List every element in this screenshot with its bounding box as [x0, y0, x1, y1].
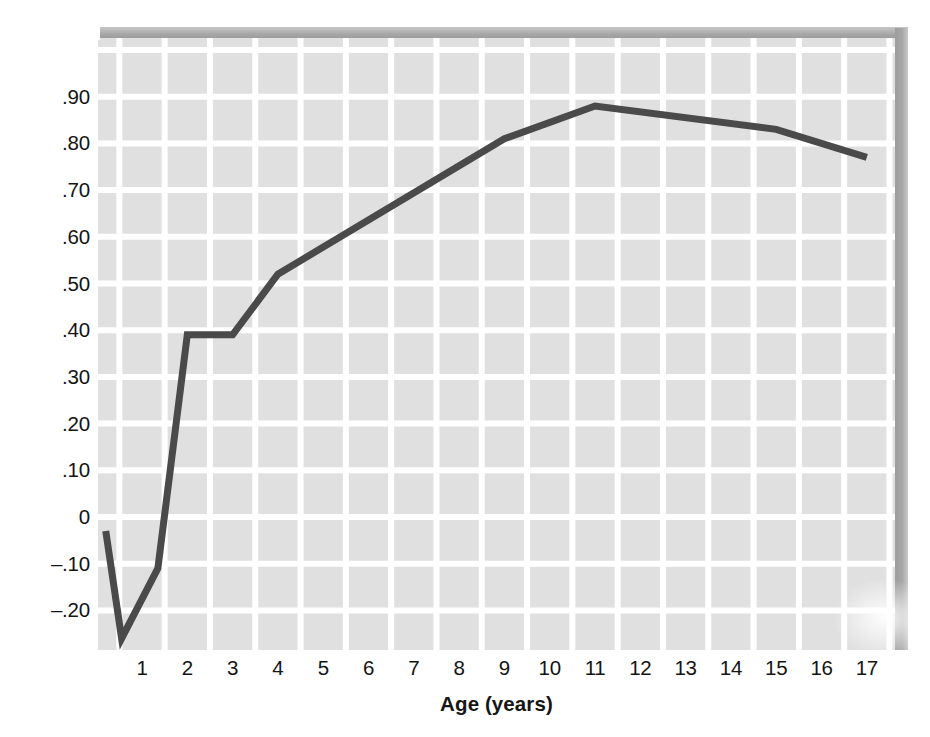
y-tick-label: .70 — [0, 180, 90, 201]
x-tick-label: 3 — [213, 658, 253, 679]
y-tick-label: .90 — [0, 86, 90, 107]
x-tick-label: 11 — [575, 658, 615, 679]
x-tick-label: 8 — [439, 658, 479, 679]
x-tick-label: 5 — [303, 658, 343, 679]
y-tick-label: .10 — [0, 460, 90, 481]
y-tick-label: .20 — [0, 413, 90, 434]
x-tick-label: 12 — [620, 658, 660, 679]
x-tick-label: 4 — [258, 658, 298, 679]
x-tick-label: 14 — [711, 658, 751, 679]
x-tick-label: 7 — [394, 658, 434, 679]
y-tick-label: .60 — [0, 227, 90, 248]
y-tick-label: .30 — [0, 367, 90, 388]
y-axis-tick-labels: .90.80.70.60.50.40.30.20.100–.10–.20 — [0, 0, 90, 737]
x-tick-label: 17 — [847, 658, 887, 679]
x-tick-label: 15 — [756, 658, 796, 679]
x-tick-label: 6 — [349, 658, 389, 679]
y-tick-label: –.20 — [0, 600, 90, 621]
chart-figure: Correlation with IQ at 18 years (r) .90.… — [0, 0, 930, 737]
y-tick-label: .40 — [0, 320, 90, 341]
plot-area — [98, 38, 895, 650]
x-tick-label: 13 — [666, 658, 706, 679]
x-tick-label: 9 — [484, 658, 524, 679]
x-axis-tick-labels: 1234567891011121314151617 — [0, 658, 930, 688]
x-tick-label: 1 — [122, 658, 162, 679]
x-axis-title: Age (years) — [98, 692, 895, 716]
y-tick-label: .50 — [0, 273, 90, 294]
x-tick-label: 10 — [530, 658, 570, 679]
y-tick-label: –.10 — [0, 553, 90, 574]
plot-shadow-top — [98, 27, 908, 38]
x-tick-label: 2 — [167, 658, 207, 679]
y-tick-label: .80 — [0, 133, 90, 154]
plot-shadow-right — [895, 28, 908, 650]
y-tick-label: 0 — [0, 507, 90, 528]
x-tick-label: 16 — [802, 658, 842, 679]
chart-svg — [98, 38, 895, 650]
